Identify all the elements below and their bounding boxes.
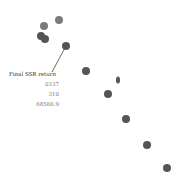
annotation-value-1: 0337 — [19, 81, 59, 87]
data-point — [116, 77, 120, 84]
data-point — [40, 22, 48, 30]
data-point-annotated — [62, 42, 70, 50]
data-point — [82, 67, 90, 75]
annotation-value-3: 68566.9 — [19, 101, 59, 107]
annotation-leader-line — [0, 0, 178, 179]
data-point — [143, 141, 151, 149]
annotation-value-2: 310 — [19, 91, 59, 97]
data-point — [163, 164, 171, 172]
data-point — [104, 90, 112, 98]
annotation-title: Final SSR return — [9, 71, 56, 77]
data-point — [122, 115, 130, 123]
data-point — [55, 16, 63, 24]
data-point — [41, 35, 49, 43]
